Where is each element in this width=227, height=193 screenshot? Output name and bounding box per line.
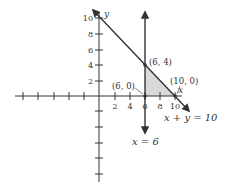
point-6-0 [143,94,147,98]
x-tick-label: 10 [170,102,180,111]
point-10-0 [173,94,177,98]
y-tick-label: 2 [88,77,93,86]
graph: 2 4 6 8 10 2 4 6 8 10 y x (6, 4) (6, 0) … [0,0,227,193]
x-tick-label: 2 [112,102,117,111]
y-tick-label: 8 [88,30,93,39]
x-tick-label: 4 [127,102,132,111]
point-label-6-4: (6, 4) [149,57,172,67]
point-label-6-0: (6, 0) [112,81,135,91]
y-tick-label: 6 [88,46,93,55]
y-axis-label: y [103,9,110,19]
equation-label-x-plus-y-eq-10: x + y = 10 [164,112,218,123]
equation-label-x-eq-6: x = 6 [132,136,159,147]
y-tick-label: 4 [88,61,93,70]
y-tick-label: 10 [83,14,93,23]
point-label-10-0: (10, 0) [170,76,198,86]
leader-6-0 [135,88,143,94]
point-6-4 [143,63,147,67]
x-tick-label: 8 [157,102,162,111]
